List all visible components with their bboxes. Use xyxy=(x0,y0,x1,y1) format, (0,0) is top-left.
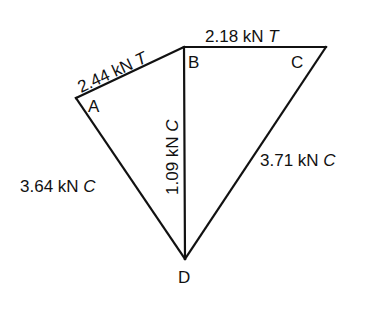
truss-diagram: A B C D 2.44 kN T 2.18 kN T 1.09 kN C 3.… xyxy=(0,0,378,321)
force-label-ad: 3.64 kN C xyxy=(20,177,96,196)
node-label-c: C xyxy=(291,53,303,72)
node-label-b: B xyxy=(188,53,199,72)
node-label-d: D xyxy=(178,268,190,287)
member-bd xyxy=(184,47,185,259)
force-label-bc: 2.18 kN T xyxy=(205,27,280,46)
force-label-bd: 1.09 kN C xyxy=(163,119,182,195)
force-label-cd: 3.71 kN C xyxy=(260,151,336,170)
node-label-a: A xyxy=(88,97,100,116)
force-label-ab: 2.44 kN T xyxy=(75,48,151,97)
